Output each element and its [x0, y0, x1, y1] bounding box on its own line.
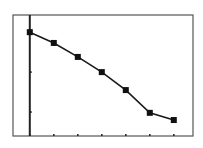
data-point-marker — [51, 40, 57, 46]
data-point-marker — [27, 29, 33, 35]
line-chart — [0, 0, 203, 148]
data-point-marker — [147, 110, 153, 116]
data-point-marker — [99, 69, 105, 75]
data-point-marker — [171, 117, 177, 123]
data-point-marker — [123, 87, 129, 93]
data-point-marker — [75, 54, 81, 60]
